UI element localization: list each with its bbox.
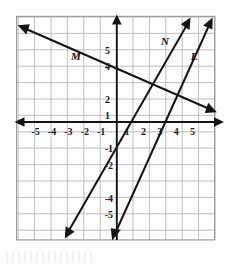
- x-tick-label: -3: [64, 126, 72, 137]
- x-tick-label: 4: [174, 126, 179, 137]
- y-tick-label: -5: [105, 209, 113, 220]
- x-tick-label: -4: [48, 126, 56, 137]
- line-label-l: L: [190, 50, 198, 62]
- x-tick-label: 5: [190, 126, 195, 137]
- line-l-bottom-arrow: [111, 228, 121, 240]
- x-axis-tick-labels: -5 -4 -3 -2 -1 1 2 3 4 5: [31, 126, 195, 138]
- y-tick-label: 5: [105, 45, 110, 56]
- x-axis-right-arrow: [214, 117, 224, 127]
- scan-artifact: [6, 251, 92, 263]
- coordinate-plane: -5 -4 -3 -2 -1 1 2 3 4 5 5 4 2 1 -1 -2 -…: [0, 0, 237, 267]
- x-tick-label: -2: [81, 126, 89, 137]
- graph-figure: -5 -4 -3 -2 -1 1 2 3 4 5 5 4 2 1 -1 -2 -…: [0, 0, 237, 267]
- y-tick-label: 4: [105, 61, 110, 72]
- grid-lines: [16, 16, 215, 240]
- x-tick-label: -1: [97, 126, 105, 137]
- x-tick-label: 2: [141, 126, 146, 137]
- y-tick-label: -4: [105, 193, 113, 204]
- line-label-n: N: [160, 35, 170, 47]
- y-tick-label: 2: [105, 94, 110, 105]
- x-tick-label: 1: [125, 126, 130, 137]
- x-tick-label: 3: [157, 126, 162, 137]
- y-tick-label: -2: [105, 160, 113, 171]
- y-axis: [112, 15, 122, 241]
- y-tick-label: -1: [105, 143, 113, 154]
- x-tick-label: -5: [31, 126, 39, 137]
- line-label-m: M: [70, 50, 82, 62]
- y-tick-label: 1: [105, 110, 110, 121]
